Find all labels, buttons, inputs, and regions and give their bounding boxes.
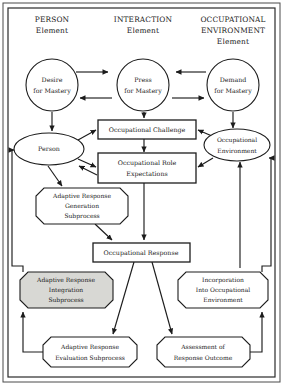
connector-role-expectations-to-person	[79, 166, 97, 175]
header-person-line1: PERSON	[35, 15, 70, 24]
incorporation-line2: Into Occupational	[196, 286, 250, 294]
header-person-line2: Element	[36, 26, 68, 35]
node-occupational-role-expectations[interactable]: Occupational Role Expectations	[98, 153, 196, 183]
person-label: Person	[38, 145, 60, 152]
header-interaction-line2: Element	[127, 26, 159, 35]
desire-for-mastery-line2: for Mastery	[33, 87, 71, 95]
node-press-for-mastery[interactable]: Press for Mastery	[117, 59, 169, 111]
node-occupational-response[interactable]: Occupational Response	[93, 243, 190, 262]
evaluation-subprocess-line1: Adaptive Response	[60, 343, 119, 351]
connector-person-to-generation	[48, 166, 62, 186]
occupational-role-expectations-line2: Expectations	[126, 170, 167, 178]
connector-response-to-evaluation	[113, 262, 134, 334]
press-for-mastery-line2: for Mastery	[124, 87, 162, 95]
assessment-line2: Response Outcome	[174, 354, 233, 362]
node-incorporation-into-occupational-environment[interactable]: Incorporation Into Occupational Environm…	[178, 272, 268, 308]
integration-subprocess-line3: Subprocess	[48, 296, 83, 304]
header-environment-line2: ENVIRONMENT	[201, 26, 265, 35]
node-desire-for-mastery[interactable]: Desire for Mastery	[26, 59, 78, 111]
node-occupational-environment[interactable]: Occupational Environment	[204, 129, 270, 161]
header-interaction-line1: INTERACTION	[114, 15, 173, 24]
column-headers: PERSON Element INTERACTION Element OCCUP…	[35, 15, 266, 46]
incorporation-line1: Incorporation	[202, 276, 244, 284]
header-person-element: PERSON Element	[35, 15, 70, 35]
node-person[interactable]: Person	[14, 133, 84, 165]
node-assessment-of-response-outcome[interactable]: Assessment of Response Outcome	[157, 337, 250, 367]
connector-generation-to-response	[95, 224, 112, 240]
node-adaptive-response-generation-subprocess[interactable]: Adaptive Response Generation Subprocess	[36, 188, 128, 224]
demand-for-mastery-line1: Demand	[220, 76, 247, 83]
node-demand-for-mastery[interactable]: Demand for Mastery	[207, 59, 259, 111]
header-environment-line1: OCCUPATIONAL	[200, 15, 265, 24]
connector-environment-to-challenge	[198, 130, 212, 136]
node-adaptive-response-evaluation-subprocess[interactable]: Adaptive Response Evaluation Subprocess	[43, 337, 137, 367]
header-occupational-environment-element: OCCUPATIONAL ENVIRONMENT Element	[200, 15, 265, 46]
diagram-canvas: PERSON Element INTERACTION Element OCCUP…	[0, 0, 283, 385]
node-adaptive-response-integration-subprocess[interactable]: Adaptive Response Integration Subprocess	[20, 272, 113, 308]
connector-person-to-challenge	[78, 130, 96, 140]
header-interaction-element: INTERACTION Element	[114, 15, 173, 35]
integration-subprocess-line1: Adaptive Response	[36, 276, 95, 284]
generation-subprocess-line3: Subprocess	[64, 212, 99, 220]
generation-subprocess-line1: Adaptive Response	[52, 192, 111, 200]
node-occupational-challenge[interactable]: Occupational Challenge	[98, 120, 196, 139]
connector-response-to-assessment	[152, 262, 172, 334]
occupational-challenge-label: Occupational Challenge	[109, 126, 186, 134]
connector-integration-to-person	[12, 150, 23, 272]
connector-incorporation-to-environment	[262, 158, 271, 272]
occupational-role-expectations-line1: Occupational Role	[118, 159, 177, 167]
incorporation-line3: Environment	[203, 296, 243, 303]
occupational-environment-line1: Occupational	[217, 136, 257, 144]
connector-evaluation-to-integration	[23, 312, 43, 352]
occupational-response-label: Occupational Response	[104, 249, 179, 257]
desire-for-mastery-line1: Desire	[42, 76, 63, 83]
evaluation-subprocess-line2: Evaluation Subprocess	[55, 354, 125, 362]
occupational-environment-line2: Environment	[217, 147, 257, 154]
generation-subprocess-line2: Generation	[65, 202, 99, 209]
header-environment-line3: Element	[217, 37, 249, 46]
demand-for-mastery-line2: for Mastery	[214, 87, 252, 95]
integration-subprocess-line2: Integration	[49, 286, 83, 294]
connector-person-to-role-expectations	[78, 159, 96, 167]
connector-assessment-to-incorporation	[250, 312, 262, 352]
press-for-mastery-line1: Press	[134, 76, 151, 83]
connector-environment-to-role-expectations	[198, 158, 213, 167]
assessment-line1: Assessment of	[180, 343, 225, 350]
